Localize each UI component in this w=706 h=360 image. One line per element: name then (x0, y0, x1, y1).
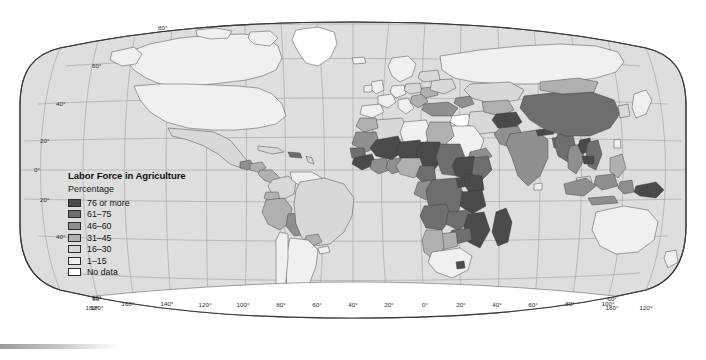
region-lesotho[interactable] (456, 261, 465, 269)
legend-swatch-icon (68, 268, 81, 276)
region-hispaniola[interactable] (288, 152, 302, 158)
corner-right-60: 60° (607, 295, 617, 302)
region-sri-lanka[interactable] (534, 183, 542, 190)
lat-label-80n: 80° (158, 24, 168, 31)
legend-swatch-icon (68, 199, 81, 207)
lon-label-80e: 80° (565, 300, 575, 307)
legend-swatch-icon (68, 257, 81, 265)
legend-swatch-icon (68, 245, 81, 253)
legend-item-label: 16–30 (87, 244, 111, 254)
corner-left-60: 60° (92, 295, 102, 302)
legend-title: Labor Force in Agriculture (68, 170, 200, 182)
legend-item-label: 61–75 (87, 209, 111, 219)
legend-item[interactable]: 76 or more (68, 197, 200, 209)
lon-label-40e: 40° (492, 301, 502, 308)
lat-label-20s: 20° (40, 196, 50, 203)
legend-swatch-icon (68, 210, 81, 218)
map-legend: Labor Force in Agriculture Percentage 76… (68, 170, 200, 278)
lon-label-0: 0° (422, 301, 428, 308)
legend-item-label: 46–60 (87, 221, 111, 231)
region-korea[interactable] (618, 104, 630, 118)
legend-swatch-icon (68, 222, 81, 230)
lon-label-120w: 120° (199, 301, 212, 308)
legend-item-label: No data (87, 267, 118, 277)
lon-label-60e: 60° (528, 301, 538, 308)
legend-item-label: 76 or more (87, 198, 130, 208)
lon-label-20w: 20° (384, 301, 394, 308)
legend-item[interactable]: 31–45 (68, 232, 200, 244)
lon-label-60w: 60° (312, 301, 322, 308)
legend-subtitle: Percentage (68, 183, 200, 195)
lon-label-40w: 40° (348, 301, 358, 308)
lon-label-20e: 20° (456, 301, 466, 308)
lon-label-120e: 120° (640, 304, 653, 311)
corner-right-180: 180° (606, 304, 619, 311)
region-belarus-baltics[interactable] (418, 70, 440, 82)
page-edge-gradient-bar (0, 344, 118, 349)
map-figure: 80° 60° 40° 20° 0° 20° 40° 60° 180° 160°… (0, 0, 706, 360)
legend-item[interactable]: 61–75 (68, 209, 200, 221)
legend-item[interactable]: 1–15 (68, 255, 200, 267)
legend-item[interactable]: 16–30 (68, 243, 200, 255)
region-iceland[interactable] (352, 57, 366, 64)
lat-label-0: 0° (34, 166, 40, 173)
lon-label-100w: 100° (237, 301, 250, 308)
legend-item[interactable]: No data (68, 267, 200, 279)
legend-item-label: 31–45 (87, 233, 111, 243)
lat-label-40s: 40° (56, 233, 66, 240)
lat-label-40n: 40° (56, 100, 66, 107)
lat-label-60n: 60° (92, 62, 102, 69)
legend-list: 76 or more 61–75 46–60 31–45 16–30 1–15 (68, 197, 200, 278)
legend-item-label: 1–15 (87, 256, 107, 266)
lon-label-140w: 140° (161, 300, 174, 307)
region-cambodia[interactable] (582, 156, 594, 164)
region-taiwan[interactable] (614, 139, 621, 148)
lon-label-160w: 160° (122, 300, 135, 307)
legend-item[interactable]: 46–60 (68, 220, 200, 232)
legend-swatch-icon (68, 234, 81, 242)
corner-left-180: 180° (91, 304, 104, 311)
region-ireland[interactable] (364, 85, 372, 92)
lat-label-20n: 20° (40, 137, 50, 144)
lon-label-80w: 80° (276, 301, 286, 308)
